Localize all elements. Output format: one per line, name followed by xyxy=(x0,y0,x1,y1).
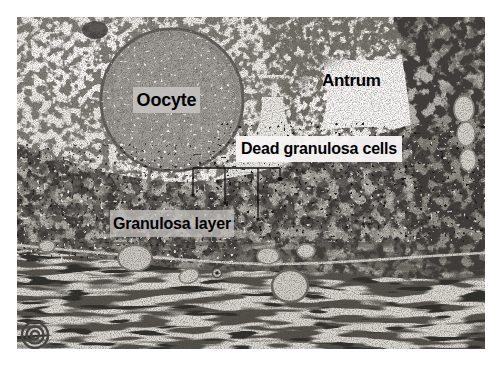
antrum-label: Antrum xyxy=(322,70,381,90)
figure-canvas: Oocyte Antrum Dead granulosa cells Granu… xyxy=(0,0,497,365)
dead-granulosa-cells-label: Dead granulosa cells xyxy=(236,136,402,162)
oocyte-label: Oocyte xyxy=(133,87,200,113)
grain-overlay xyxy=(17,17,485,349)
micrograph-art xyxy=(17,17,485,349)
micrograph-photo xyxy=(17,17,485,349)
granulosa-layer-label: Granulosa layer xyxy=(110,210,234,237)
